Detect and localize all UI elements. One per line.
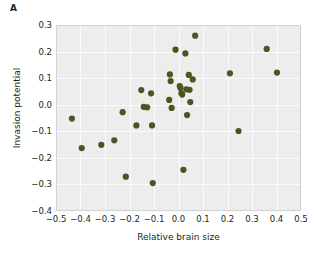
x-tick-label: 0.0: [172, 214, 186, 224]
x-tick-label: −0.4: [70, 214, 91, 224]
x-tick-label: −0.1: [144, 214, 165, 224]
y-tick-label: 0.3: [38, 20, 52, 30]
x-tick-label: 0.5: [294, 214, 308, 224]
x-tick-label: 0.4: [270, 214, 284, 224]
plot-frame: [56, 25, 301, 211]
x-tick-label: 0.2: [221, 214, 235, 224]
x-tick-label: −0.3: [95, 214, 116, 224]
y-tick-label: −0.4: [31, 206, 52, 216]
x-axis-title: Relative brain size: [56, 232, 301, 242]
y-tick-label: −0.2: [31, 153, 52, 163]
y-tick-label: 0.2: [38, 47, 52, 57]
y-tick-label: −0.1: [31, 126, 52, 136]
panel-label: A: [10, 3, 17, 13]
plot-area: [56, 25, 301, 211]
x-tick-label: 0.3: [245, 214, 259, 224]
y-axis-title: Invasion potential: [12, 28, 22, 188]
y-tick-label: 0.1: [38, 73, 52, 83]
x-tick-label: 0.1: [196, 214, 210, 224]
figure-panel-a: A −0.5−0.4−0.3−0.2−0.10.00.10.20.30.40.5…: [0, 0, 315, 257]
y-tick-label: 0.0: [38, 100, 52, 110]
y-tick-label: −0.3: [31, 179, 52, 189]
x-tick-label: −0.2: [119, 214, 140, 224]
